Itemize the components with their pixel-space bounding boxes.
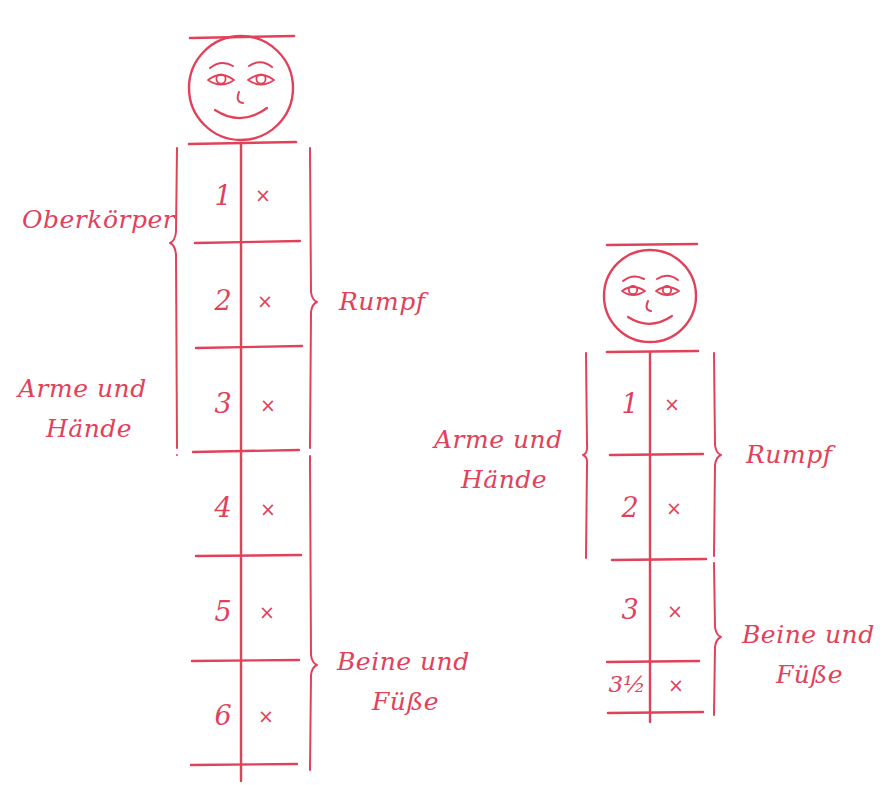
segment-mark: × <box>253 498 283 520</box>
segment-number: 3 <box>610 594 650 625</box>
head-outline <box>189 36 293 140</box>
segment-number: 3 <box>203 388 243 419</box>
label-arme-und-haende-line2: Hände <box>461 463 547 497</box>
segment-number: 1 <box>610 388 650 419</box>
left-eyebrow <box>210 63 233 68</box>
segment-mark: × <box>252 601 282 623</box>
smile <box>628 316 672 324</box>
top-cap-line <box>190 36 294 38</box>
brace-oberkoerper <box>170 148 177 448</box>
segment-mark: × <box>661 674 691 696</box>
segment-number: 1 <box>203 180 243 211</box>
label-arme-und-haende-line1: Arme und <box>18 372 147 406</box>
top-cap-line <box>607 244 697 245</box>
segment-number: 5 <box>203 596 243 627</box>
brace-beine-und-fuesse <box>714 563 721 715</box>
divider-3-4 <box>193 450 299 452</box>
divider-2-3 <box>196 346 302 348</box>
segment-number: 6 <box>203 700 243 731</box>
left-eyebrow <box>623 276 644 281</box>
segment-number: 4 <box>203 492 243 523</box>
label-oberkoerper: Oberkörper <box>22 203 175 237</box>
label-rumpf: Rumpf <box>339 285 425 319</box>
shoulder-line <box>607 351 698 352</box>
segment-mark: × <box>660 600 690 622</box>
label-beine-und-fuesse-line2: Füße <box>372 685 439 719</box>
segment-mark: × <box>657 393 687 415</box>
smile <box>215 108 267 118</box>
left-figure-drawing <box>170 36 317 781</box>
label-beine-und-fuesse-line1: Beine und <box>337 645 470 679</box>
segment-mark: × <box>659 497 689 519</box>
drawing-canvas: 1 × 2 × 3 × 4 × 5 × 6 × Oberkörper Arme … <box>0 0 896 785</box>
nose <box>238 92 243 103</box>
segment-mark: × <box>250 290 280 312</box>
label-beine-und-fuesse-line2: Füße <box>776 658 843 692</box>
divider-3-half <box>607 661 699 662</box>
shoulder-line <box>189 142 296 144</box>
divider-1-2 <box>195 241 300 243</box>
right-eyebrow <box>657 276 678 280</box>
brace-beine-und-fuesse <box>310 456 317 770</box>
segment-mark: × <box>248 184 278 206</box>
segment-number: 2 <box>610 492 650 523</box>
bottom-line <box>191 764 297 765</box>
segment-number: 3½ <box>602 671 652 697</box>
bottom-line <box>608 712 703 713</box>
segment-mark: × <box>253 394 283 416</box>
segment-mark: × <box>251 705 281 727</box>
brace-rumpf <box>310 148 317 448</box>
divider-4-5 <box>196 555 301 556</box>
divider-1-2 <box>610 454 703 455</box>
right-eyebrow <box>249 62 272 67</box>
label-beine-und-fuesse-line1: Beine und <box>742 618 875 652</box>
label-arme-und-haende-line1: Arme und <box>434 423 563 457</box>
segment-number: 2 <box>203 285 243 316</box>
nose <box>647 301 651 311</box>
divider-2-3 <box>612 559 706 560</box>
divider-5-6 <box>192 660 299 661</box>
brace-arme-und-haende <box>583 353 587 558</box>
brace-rumpf <box>714 353 721 556</box>
right-figure-drawing <box>583 244 721 722</box>
label-arme-und-haende-line2: Hände <box>46 412 132 446</box>
label-rumpf: Rumpf <box>746 438 832 472</box>
head-outline <box>604 250 696 342</box>
